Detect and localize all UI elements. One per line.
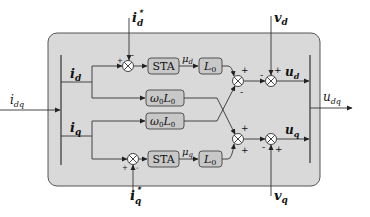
sum-junction-vd <box>266 76 277 87</box>
label-i-d-ref: id⋆ <box>132 6 145 28</box>
label-v-d: vd <box>274 10 289 27</box>
sum-junction-vq <box>266 134 277 145</box>
sign-plus: + <box>274 65 282 75</box>
sign-minus: - <box>240 87 243 97</box>
sum-junction-id <box>123 61 134 72</box>
sign-plus: + <box>275 144 283 154</box>
sign-minus: - <box>262 142 265 152</box>
label-u-dq: udq <box>323 90 341 106</box>
sum-junction-ud-decouple <box>233 76 244 87</box>
sign-plus: + <box>122 164 128 172</box>
sum-junction-iq <box>128 154 139 165</box>
sta-label-d: STA <box>152 60 175 73</box>
sum-junction-uq-decouple <box>233 134 244 145</box>
sign-minus: - <box>260 70 263 80</box>
sign-plus: + <box>241 65 249 75</box>
sign-plus: + <box>117 57 123 65</box>
sign-plus: + <box>241 123 249 133</box>
label-v-q: vq <box>274 188 288 205</box>
pmsm-current-control-diagram: idq id iq id⋆ iq⋆ + - + - STA μd L0 ω0L0… <box>0 0 370 217</box>
sign-minus: - <box>131 51 134 60</box>
sign-plus: + <box>241 145 249 155</box>
sta-label-q: STA <box>152 153 175 166</box>
label-i-dq: idq <box>10 93 24 109</box>
